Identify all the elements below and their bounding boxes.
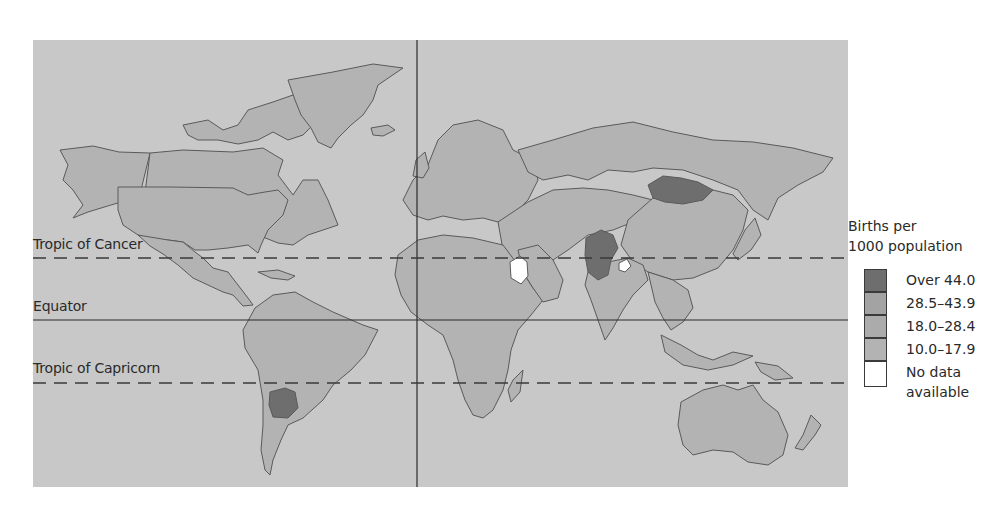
legend-label: Over 44.0 (906, 270, 975, 290)
legend-swatch (864, 338, 887, 361)
land-iceland (371, 125, 395, 136)
region-mongolia (648, 176, 713, 204)
land-new-guinea (755, 362, 793, 380)
legend-title-line1: Births per (848, 216, 1006, 236)
legend-title: Births per 1000 population (848, 216, 1006, 256)
legend-swatch (864, 315, 887, 338)
legend-label: 10.0–17.9 (906, 339, 975, 359)
legend-swatch (864, 269, 887, 292)
legend-label-line1: No data (906, 362, 969, 382)
legend-swatch (864, 361, 887, 387)
equator-label: Equator (33, 298, 87, 314)
land-indonesia (661, 335, 753, 370)
legend-label-line2: available (906, 382, 969, 402)
land-greenland (288, 64, 403, 148)
land-madagascar (508, 370, 523, 402)
legend-label: 18.0–28.4 (906, 316, 975, 336)
land-southeast-asia (648, 272, 693, 330)
world-map-graphic (33, 40, 848, 487)
world-map (33, 40, 848, 487)
land-caribbean (258, 270, 295, 280)
legend-label: 28.5–43.9 (906, 293, 975, 313)
land-new-zealand (795, 415, 821, 450)
tropic-of-capricorn-label: Tropic of Capricorn (33, 360, 160, 376)
legend-title-line2: 1000 population (848, 236, 1006, 256)
land-usa (118, 187, 288, 253)
legend-label: No data available (906, 362, 969, 402)
legend-swatch (864, 292, 887, 315)
tropic-of-cancer-label: Tropic of Cancer (33, 236, 142, 252)
land-australia (678, 385, 788, 465)
